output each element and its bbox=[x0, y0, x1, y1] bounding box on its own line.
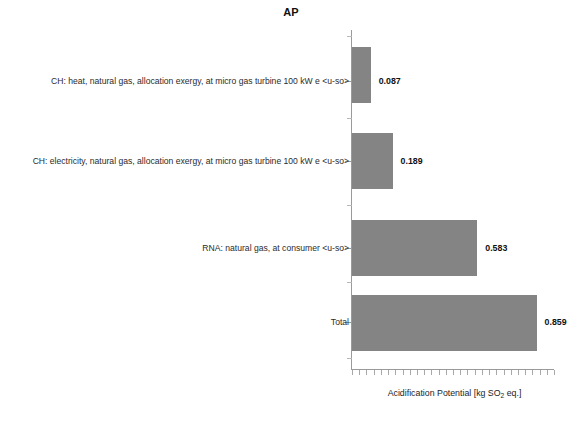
bar-value-label: 0.583 bbox=[485, 243, 507, 253]
x-axis-tick bbox=[504, 370, 505, 375]
bar-value-label: 0.859 bbox=[545, 317, 567, 327]
x-axis-tick bbox=[424, 370, 425, 375]
x-axis-tick bbox=[403, 370, 404, 375]
y-axis-minor-tick bbox=[347, 118, 352, 119]
x-axis-title-tail: eq.] bbox=[504, 388, 521, 398]
x-axis-tick bbox=[417, 370, 418, 375]
x-axis-tick bbox=[431, 370, 432, 375]
x-axis-tick bbox=[489, 370, 490, 375]
x-axis-tick bbox=[518, 370, 519, 375]
x-axis-tick bbox=[460, 370, 461, 375]
x-axis-tick bbox=[395, 370, 396, 375]
x-axis-tick bbox=[453, 370, 454, 375]
x-axis-tick bbox=[467, 370, 468, 375]
x-axis-tick bbox=[359, 370, 360, 375]
bar bbox=[352, 133, 393, 189]
chart-canvas: AP CH: heat, natural gas, allocation exe… bbox=[0, 0, 582, 421]
x-axis-tick bbox=[366, 370, 367, 375]
x-axis-tick bbox=[511, 370, 512, 375]
x-axis-title-subscript: 2 bbox=[501, 392, 505, 399]
x-axis-tick bbox=[374, 370, 375, 375]
x-axis-tick bbox=[532, 370, 533, 375]
y-axis-tick-label: RNA: natural gas, at consumer <u-so> bbox=[202, 243, 349, 253]
x-axis-tick bbox=[554, 370, 555, 375]
x-axis-tick bbox=[352, 370, 353, 375]
x-axis-title-main: Acidification Potential [kg SO bbox=[388, 388, 501, 398]
x-axis-tick bbox=[547, 370, 548, 375]
y-axis-tick-label: CH: heat, natural gas, allocation exergy… bbox=[51, 76, 349, 86]
bar-value-label: 0.087 bbox=[379, 76, 401, 86]
y-axis-minor-tick bbox=[347, 205, 352, 206]
x-axis-tick bbox=[525, 370, 526, 375]
x-axis-tick bbox=[446, 370, 447, 375]
y-axis-minor-tick bbox=[347, 282, 352, 283]
bar bbox=[352, 295, 537, 351]
bar bbox=[352, 47, 371, 103]
x-axis-title: Acidification Potential [kg SO2 eq.] bbox=[352, 388, 557, 398]
y-axis-minor-tick bbox=[347, 358, 352, 359]
bar bbox=[352, 220, 477, 276]
x-axis-tick bbox=[475, 370, 476, 375]
x-axis-tick bbox=[381, 370, 382, 375]
bar-value-label: 0.189 bbox=[401, 156, 423, 166]
x-axis-tick bbox=[540, 370, 541, 375]
x-axis-tick bbox=[410, 370, 411, 375]
y-axis-tick-label: Total bbox=[331, 317, 349, 327]
x-axis-tick bbox=[496, 370, 497, 375]
x-axis-tick bbox=[482, 370, 483, 375]
chart-title: AP bbox=[0, 6, 582, 18]
y-axis-minor-tick bbox=[347, 36, 352, 37]
x-axis-tick bbox=[439, 370, 440, 375]
x-axis-tick bbox=[388, 370, 389, 375]
y-axis-tick-label: CH: electricity, natural gas, allocation… bbox=[33, 156, 349, 166]
